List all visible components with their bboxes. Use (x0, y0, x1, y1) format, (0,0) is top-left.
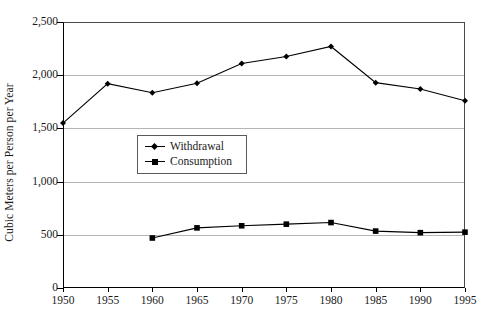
data-point-diamond (283, 54, 289, 60)
chart-legend: Withdrawal Consumption (137, 135, 247, 174)
data-point-square (328, 220, 334, 226)
y-tick-mark (57, 22, 63, 23)
y-tick-mark (57, 75, 63, 76)
data-point-square (373, 228, 379, 234)
y-tick-mark (57, 235, 63, 236)
x-tick-mark (286, 288, 287, 292)
y-tick-mark (57, 128, 63, 129)
legend-label-consumption: Consumption (170, 155, 232, 168)
data-point-square (239, 223, 245, 229)
y-tick-label: 2,000 (14, 69, 58, 81)
y-tick-label: 2,500 (14, 16, 58, 28)
y-tick-label: 1,500 (14, 123, 58, 135)
data-point-diamond (239, 61, 245, 67)
data-point-square (462, 229, 468, 235)
x-tick-mark (108, 288, 109, 292)
data-point-square (418, 230, 424, 236)
square-marker-icon (144, 156, 166, 168)
x-tick-mark (420, 288, 421, 292)
x-tick-mark (242, 288, 243, 292)
data-point-diamond (417, 86, 423, 92)
legend-item-consumption: Consumption (144, 154, 240, 169)
series-line-withdrawal (63, 46, 465, 123)
y-tick-label: 0 (14, 282, 58, 294)
data-point-square (150, 235, 156, 241)
x-tick-mark (331, 288, 332, 292)
x-tick-mark (197, 288, 198, 292)
y-tick-label: 1,000 (14, 176, 58, 188)
x-tick-mark (465, 288, 466, 292)
x-tick-mark (63, 288, 64, 292)
y-tick-mark (57, 182, 63, 183)
legend-label-withdrawal: Withdrawal (170, 140, 224, 153)
x-tick-label: 1995 (435, 294, 486, 307)
data-point-diamond (462, 98, 468, 104)
series-overlay (63, 22, 465, 288)
diamond-marker-icon (144, 141, 166, 153)
x-axis-tick-labels: 1950195519601965197019751980198519901995 (63, 294, 465, 314)
line-chart: Cubic Meters per Person per Year 05001,0… (0, 0, 486, 325)
y-tick-label: 500 (14, 229, 58, 241)
x-tick-mark (376, 288, 377, 292)
data-point-square (284, 221, 290, 227)
data-point-diamond (149, 90, 155, 96)
data-point-square (194, 225, 200, 231)
legend-item-withdrawal: Withdrawal (144, 139, 240, 154)
y-axis-tick-labels: 05001,0001,5002,0002,500 (14, 0, 58, 325)
x-tick-mark (152, 288, 153, 292)
data-point-diamond (194, 80, 200, 86)
